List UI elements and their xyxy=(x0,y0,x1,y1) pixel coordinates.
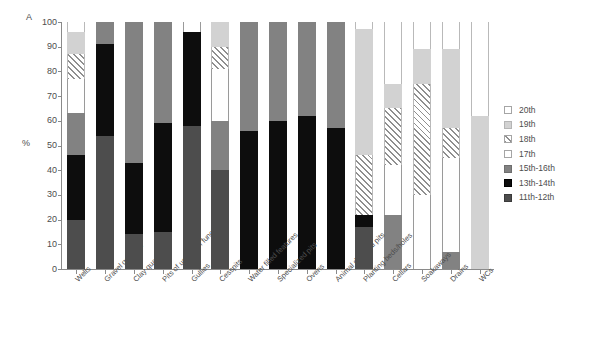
x-axis-tick-label: Cesspits xyxy=(218,258,244,284)
legend-swatch-icon xyxy=(504,194,512,202)
x-axis-tick-label: Water filled features xyxy=(247,231,300,284)
legend-swatch-icon xyxy=(504,135,512,143)
legend-item-label: 20th xyxy=(519,106,536,115)
legend-item[interactable]: 19th xyxy=(504,118,596,133)
legend-swatch-icon xyxy=(504,165,512,173)
legend-item-label: 19th xyxy=(519,120,536,129)
x-axis-tick-label: Cellars xyxy=(391,261,413,283)
legend-item-label: 13th-14th xyxy=(519,179,555,188)
legend-item-label: 15th-16th xyxy=(519,164,555,173)
legend: 20th19th18th17th15th-16th13th-14th11th-1… xyxy=(504,103,596,205)
x-axis-tick-label: Animal disposal pits xyxy=(334,231,387,284)
legend-item[interactable]: 18th xyxy=(504,132,596,147)
legend-item[interactable]: 13th-14th xyxy=(504,176,596,191)
x-axis-tick-label: Gullies xyxy=(190,262,212,284)
x-axis-tick-label: Drains xyxy=(449,263,470,284)
legend-swatch-icon xyxy=(504,106,512,114)
legend-item-label: 17th xyxy=(519,150,536,159)
legend-item[interactable]: 11th-12th xyxy=(504,191,596,206)
legend-swatch-icon xyxy=(504,179,512,187)
x-axis-tick-label: Soakaways xyxy=(420,251,453,284)
x-axis-tick-label: Wells xyxy=(74,265,93,284)
legend-item-label: 11th-12th xyxy=(519,193,554,202)
legend-swatch-icon xyxy=(504,150,512,158)
legend-item[interactable]: 15th-16th xyxy=(504,161,596,176)
legend-swatch-icon xyxy=(504,121,512,129)
legend-item[interactable]: 17th xyxy=(504,147,596,162)
legend-item-label: 18th xyxy=(519,135,536,144)
stacked-bar-chart: A % 1009080706050403020100 WellsGravel q… xyxy=(0,0,598,356)
legend-item[interactable]: 20th xyxy=(504,103,596,118)
x-axis-tick-label: Ovens xyxy=(305,263,326,284)
